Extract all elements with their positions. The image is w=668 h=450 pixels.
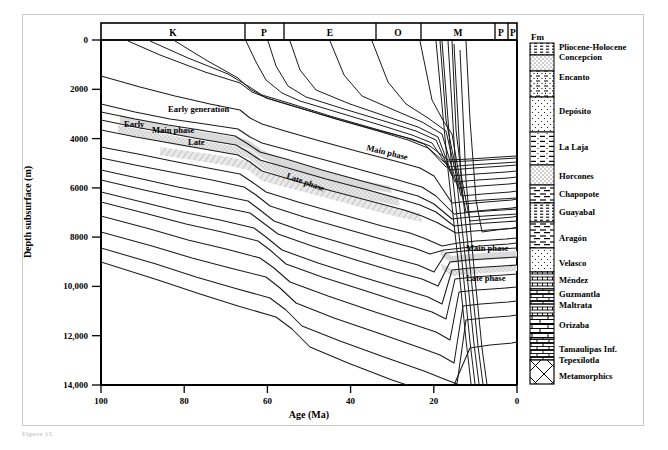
- legend-label-velasco: Velasco: [559, 258, 586, 268]
- x-tick-80: 80: [180, 396, 190, 406]
- legend-label-encanto: Encanto: [559, 72, 590, 82]
- annotation-early-generation: Early generation: [168, 104, 229, 114]
- y-axis-title: Depth subsurface (m): [22, 166, 34, 258]
- period-label-m: M: [454, 28, 463, 38]
- period-label-o: O: [394, 28, 401, 38]
- y-tick-4000: 4000: [70, 134, 89, 144]
- x-axis: 100 80 60 40 20 0 Age (Ma): [94, 385, 520, 421]
- period-label-p1: P: [261, 28, 267, 38]
- y-tick-0: 0: [84, 35, 89, 45]
- legend-label-chapopote: Chapopote: [559, 189, 599, 199]
- y-tick-8000: 8000: [70, 232, 89, 242]
- figure-caption: Figure 15: [22, 430, 644, 438]
- period-label-p3: P: [510, 28, 516, 38]
- annotation-late-phase-deep: Late phase: [466, 273, 506, 283]
- annotation-early: Early: [124, 119, 145, 129]
- curve-12: [101, 216, 517, 340]
- legend-header: Fm: [531, 32, 544, 42]
- y-tick-14000: 14,000: [63, 380, 88, 390]
- x-tick-40: 40: [346, 396, 356, 406]
- annotation-main-phase: Main phase: [152, 125, 194, 135]
- curve-10-late-deep-top: [101, 192, 517, 304]
- legend-swatch-column: [530, 43, 554, 384]
- period-label-k: K: [169, 28, 177, 38]
- x-axis-title: Age (Ma): [289, 409, 329, 421]
- x-tick-0: 0: [515, 396, 520, 406]
- y-tick-12000: 12,000: [63, 331, 88, 341]
- x-tick-60: 60: [263, 396, 273, 406]
- x-tick-20: 20: [429, 396, 439, 406]
- period-label-e: E: [327, 28, 333, 38]
- y-tick-6000: 6000: [70, 183, 89, 193]
- legend-label-metamorphics: Metamorphics: [559, 371, 613, 381]
- burial-history-chart: K P E O M P P 0 2000 4000: [0, 0, 668, 450]
- legend-label-guzmantla: Guzmantla: [559, 289, 601, 299]
- legend-label-horcones: Horcones: [559, 171, 594, 181]
- legend-label-mendez: Méndez: [559, 275, 588, 285]
- caption-label: Figure: [22, 430, 43, 438]
- legend-label-concepcion: Concepcion: [559, 52, 602, 62]
- y-tick-10000: 10,000: [63, 281, 88, 291]
- burial-curves: [101, 41, 517, 399]
- caption-number: 15: [45, 430, 52, 438]
- geologic-period-bar: K P E O M P P: [101, 23, 517, 40]
- legend-label-maltrata: Maltrata: [559, 300, 593, 310]
- legend-label-guayabal: Guayabal: [559, 207, 595, 217]
- x-tick-100: 100: [94, 396, 108, 406]
- lithology-legend: Fm Pliocene-Holocene: [530, 32, 626, 384]
- y-axis: 0 2000 4000 6000 8000 10,000 12,000 14,0…: [22, 35, 101, 390]
- legend-label-tepexilotla: Tepexilotla: [559, 355, 600, 365]
- y-tick-2000: 2000: [70, 84, 89, 94]
- legend-label-aragon: Aragón: [559, 233, 587, 243]
- annotation-late: Late: [188, 137, 205, 147]
- annotation-main-phase-deep: Main phase: [466, 243, 508, 253]
- period-label-p2: P: [498, 28, 504, 38]
- legend-label-pliocene-holocene: Pliocene-Holocene: [559, 42, 626, 52]
- figure-root: K P E O M P P 0 2000 4000: [0, 0, 668, 450]
- legend-label-la-laja: La Laja: [559, 142, 589, 152]
- legend-label-deposito: Depósito: [559, 106, 591, 116]
- legend-label-orizaba: Orizaba: [559, 320, 590, 330]
- legend-label-tamaulipas-inf: Tamaulipas Inf.: [559, 344, 617, 354]
